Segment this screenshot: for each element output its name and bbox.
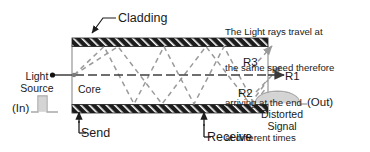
input-pulse-waveform bbox=[31, 96, 58, 112]
cladding-leader-line bbox=[92, 18, 116, 33]
note-line-4: at different times bbox=[225, 132, 334, 144]
cladding-label: Cladding bbox=[118, 12, 167, 25]
note-line-3: arriving at the end bbox=[225, 97, 334, 109]
note-line-2: the same speed therefore bbox=[225, 62, 334, 74]
note-line-1: The Light rays travel at bbox=[225, 26, 334, 38]
send-label: Send bbox=[81, 127, 110, 140]
explanatory-note: The Light rays travel at the same speed … bbox=[225, 3, 334, 152]
ray-launch-node bbox=[72, 73, 76, 77]
fiber-optic-dispersion-diagram: Cladding Core Send Receive R1 R2 R3 (In)… bbox=[0, 0, 370, 152]
light-source-label: Light Source bbox=[11, 70, 63, 94]
input-signal-label: (In) bbox=[12, 102, 29, 114]
core-label: Core bbox=[78, 84, 101, 95]
